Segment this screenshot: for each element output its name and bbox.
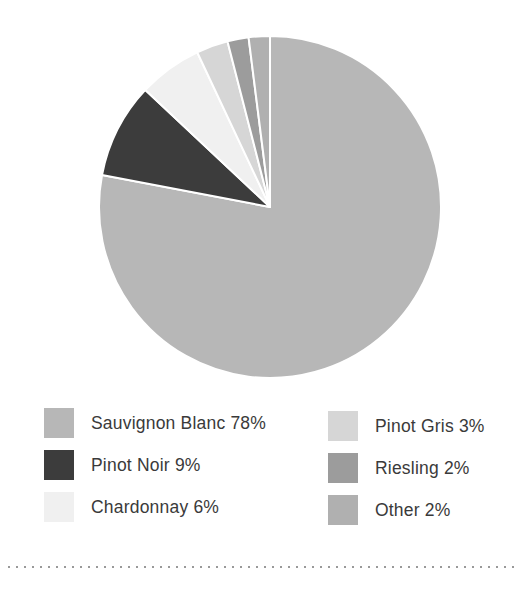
legend-column-left: Sauvignon Blanc 78% Pinot Noir 9% Chardo…	[44, 408, 266, 534]
legend-swatch-pinot-noir	[44, 450, 74, 480]
legend-item-pinot-noir: Pinot Noir 9%	[44, 450, 266, 480]
legend-item-riesling: Riesling 2%	[328, 453, 485, 483]
legend-item-sauvignon-blanc: Sauvignon Blanc 78%	[44, 408, 266, 438]
legend-label-riesling: Riesling 2%	[375, 453, 470, 483]
legend-item-other: Other 2%	[328, 495, 485, 525]
legend-swatch-chardonnay	[44, 492, 74, 522]
legend-label-pinot-noir: Pinot Noir 9%	[91, 450, 201, 480]
legend-item-chardonnay: Chardonnay 6%	[44, 492, 266, 522]
legend-label-chardonnay: Chardonnay 6%	[91, 492, 219, 522]
legend-swatch-other	[328, 495, 358, 525]
legend-swatch-riesling	[328, 453, 358, 483]
legend-label-sauvignon-blanc: Sauvignon Blanc 78%	[91, 408, 266, 438]
dotted-divider	[8, 566, 514, 568]
legend-item-pinot-gris: Pinot Gris 3%	[328, 411, 485, 441]
legend-label-other: Other 2%	[375, 495, 451, 525]
legend-label-pinot-gris: Pinot Gris 3%	[375, 411, 485, 441]
legend-swatch-pinot-gris	[328, 411, 358, 441]
pie-chart	[0, 0, 528, 400]
pie-chart-figure: Sauvignon Blanc 78% Pinot Noir 9% Chardo…	[0, 0, 528, 592]
legend-column-right: Pinot Gris 3% Riesling 2% Other 2%	[328, 411, 485, 537]
legend-swatch-sauvignon-blanc	[44, 408, 74, 438]
